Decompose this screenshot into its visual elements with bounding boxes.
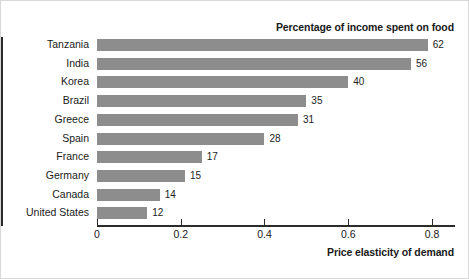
bar-value-label: 62 — [433, 37, 444, 52]
bar — [97, 170, 185, 182]
bar-value-label: 12 — [152, 205, 163, 220]
bar-row: 62 — [97, 37, 455, 56]
bar-value-label: 31 — [303, 112, 314, 127]
bar — [97, 207, 147, 219]
category-label: Korea — [61, 75, 89, 88]
bar-row: 17 — [97, 149, 455, 168]
bar-value-label: 17 — [207, 149, 218, 164]
chart-title: Percentage of income spent on food — [276, 21, 454, 33]
bar-row: 35 — [97, 93, 455, 112]
x-axis-title: Price elasticity of demand — [327, 246, 454, 258]
bar-row: 15 — [97, 168, 455, 187]
y-axis-line — [1, 37, 3, 226]
bar-value-label: 35 — [311, 93, 322, 108]
x-tick-label: 0 — [94, 228, 100, 240]
bar-value-label: 40 — [353, 74, 364, 89]
x-tick-mark — [181, 219, 182, 226]
x-tick-mark — [97, 219, 98, 226]
category-label: Brazil — [63, 94, 89, 107]
plot-area: 62564035312817151412 — [97, 37, 455, 224]
category-label: India — [66, 57, 89, 70]
bar-value-label: 28 — [269, 131, 280, 146]
bar-row: 56 — [97, 56, 455, 75]
bar-row: 14 — [97, 187, 455, 206]
bar — [97, 189, 160, 201]
bar — [97, 114, 298, 126]
category-label: Germany — [46, 169, 89, 182]
category-label: United States — [26, 206, 89, 219]
bar-value-label: 56 — [416, 56, 427, 71]
x-tick-mark — [264, 219, 265, 226]
category-label: Spain — [62, 132, 89, 145]
chart-figure: Percentage of income spent on food 62564… — [0, 0, 469, 279]
bar — [97, 133, 264, 145]
bar — [97, 58, 411, 70]
bar-value-label: 14 — [165, 187, 176, 202]
bar-value-label: 15 — [190, 168, 201, 183]
bar — [97, 151, 202, 163]
x-tick-label: 0.4 — [257, 228, 272, 240]
x-tick-label: 0.8 — [425, 228, 440, 240]
bar — [97, 39, 428, 51]
x-axis-line — [97, 225, 455, 227]
category-label: France — [56, 150, 89, 163]
x-tick-mark — [432, 219, 433, 226]
x-tick-label: 0.2 — [173, 228, 188, 240]
bar — [97, 76, 348, 88]
category-label: Tanzania — [47, 38, 89, 51]
bar-row: 31 — [97, 112, 455, 131]
bar-row: 12 — [97, 205, 455, 224]
bar-row: 28 — [97, 131, 455, 150]
bar-row: 40 — [97, 74, 455, 93]
bar — [97, 95, 306, 107]
category-label: Greece — [55, 113, 89, 126]
x-tick-label: 0.6 — [341, 228, 356, 240]
x-tick-mark — [348, 219, 349, 226]
category-label: Canada — [52, 188, 89, 201]
